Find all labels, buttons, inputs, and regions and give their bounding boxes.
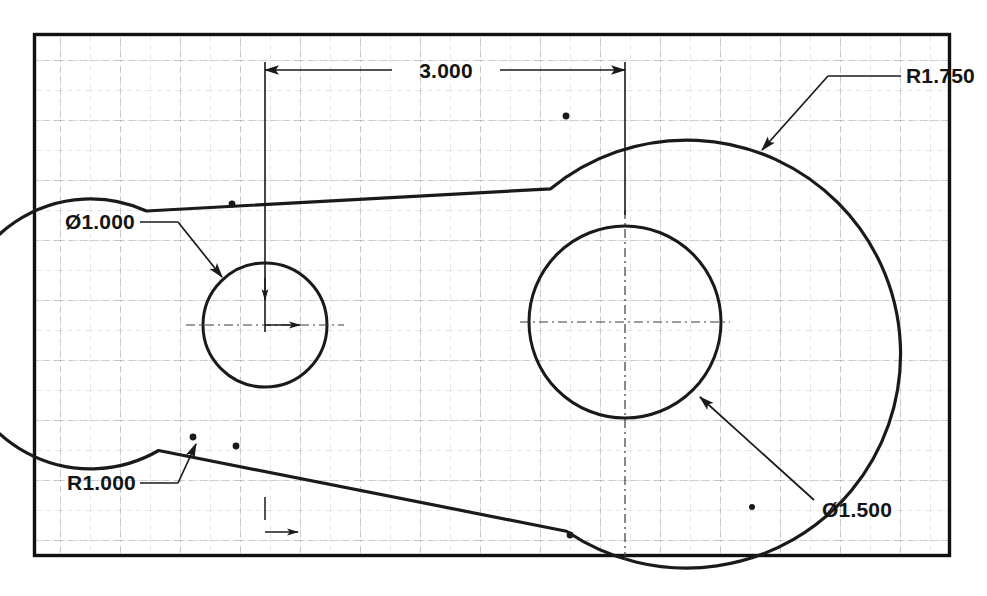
dimension-r1000-text: R1.000 xyxy=(67,471,136,494)
dimension-dia1500-text: Ø1.500 xyxy=(822,498,892,521)
dimension-r1750-text: R1.750 xyxy=(906,64,975,87)
tangent-dot-lower-right xyxy=(567,532,574,539)
grid-paper xyxy=(35,35,951,557)
grid-lines xyxy=(36,36,950,556)
tangent-dot-right-arc xyxy=(749,504,755,510)
tangent-dot-left-arc xyxy=(190,434,197,441)
dimension-dia1000-text: Ø1.000 xyxy=(65,210,135,233)
technical-drawing-canvas: 3.000 R1.750 Ø1.000 R1.000 Ø1.500 xyxy=(0,0,987,596)
tangent-dot-upper-right xyxy=(563,113,570,120)
tangent-dot-lower-left xyxy=(233,443,240,450)
dimension-3000-text: 3.000 xyxy=(419,59,473,82)
cad-drawing-svg: 3.000 R1.750 Ø1.000 R1.000 Ø1.500 xyxy=(0,0,987,596)
tangent-dot-upper-left xyxy=(229,201,236,208)
